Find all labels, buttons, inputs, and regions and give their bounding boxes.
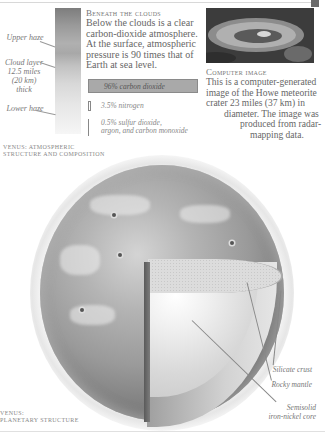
core-label: Semisolid iron-nickel core	[240, 404, 316, 421]
computer-image-line6: mapping data.	[206, 130, 325, 141]
terrain-highland	[60, 245, 100, 275]
terrain-highland	[90, 195, 150, 215]
nitrogen-label: 3.5% nitrogen	[101, 102, 144, 110]
co2-label: 96% carbon dioxide	[104, 82, 165, 91]
computer-image-section: Computer image This is a computer-genera…	[206, 67, 325, 140]
other-gases-label: 0.5% sulfur dioxide, argon, and carbon m…	[101, 119, 188, 135]
cloud-layer-line3: (20 km)	[2, 76, 46, 85]
silicate-crust-label: Silicate crust	[252, 366, 312, 375]
planet-structure-caption: Venus: planetary structure	[0, 410, 79, 424]
cloud-layer-line4: thick	[2, 85, 46, 94]
volcano-icon	[80, 308, 84, 312]
planet-caption-line1: Venus:	[0, 410, 79, 417]
crater-radar-icon	[206, 8, 314, 63]
computer-image-line2: image of the Howe meteorite	[206, 88, 325, 99]
computer-image-heading: Computer image	[206, 67, 325, 77]
top-rule	[0, 2, 318, 3]
beneath-clouds-section: Beneath the clouds Below the clouds is a…	[86, 8, 204, 71]
bottom-rule	[0, 431, 325, 432]
cloud-layer-label: Cloud layer 12.5 miles (20 km) thick	[2, 58, 46, 94]
computer-image-line1: This is a computer-generated	[206, 77, 325, 88]
nitrogen-bar	[88, 101, 91, 111]
cloud-layer-line2: 12.5 miles	[2, 67, 46, 76]
rocky-mantle-label: Rocky mantle	[252, 381, 312, 390]
terrain-highland	[180, 205, 230, 223]
cutaway-wall	[144, 262, 150, 422]
atmosphere-caption: Venus: atmospheric structure and composi…	[3, 144, 105, 158]
computer-image-line5: produced from radar-	[206, 119, 325, 130]
computer-image-line3: crater 23 miles (37 km) in	[206, 98, 325, 109]
co2-bar: 96% carbon dioxide	[88, 79, 198, 93]
page-corner-tab	[311, 0, 319, 7]
other-gases-line2: argon, and carbon monoxide	[101, 127, 188, 135]
atmosphere-column-illustration	[55, 8, 81, 134]
volcano-icon	[118, 253, 122, 257]
other-gases-bar	[88, 119, 89, 136]
core-label-line2: iron-nickel core	[240, 413, 316, 422]
volcano-icon	[112, 213, 116, 217]
mantle-cross-section	[148, 259, 283, 293]
atmosphere-caption-line1: Venus: atmospheric	[3, 144, 105, 151]
terrain-highland	[70, 305, 115, 325]
beneath-clouds-body: Below the clouds is a clear carbon-dioxi…	[86, 18, 204, 71]
atmosphere-caption-line2: structure and composition	[3, 151, 105, 158]
planet-caption-line2: planetary structure	[0, 417, 79, 424]
volcano-icon	[230, 241, 234, 245]
computer-image-line4: diameter. The image was	[206, 109, 325, 120]
howe-crater-image	[206, 8, 314, 63]
